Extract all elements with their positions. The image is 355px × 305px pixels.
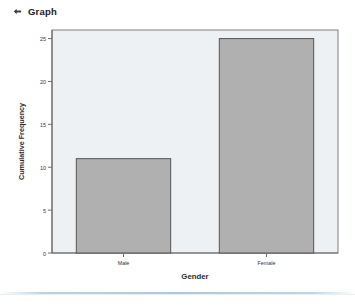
x-axis-title: Gender bbox=[181, 272, 208, 281]
y-axis-title: Cumulative Frequency bbox=[17, 103, 26, 180]
y-axis-tick-label: 15 bbox=[40, 122, 46, 128]
x-axis-tick-label: Male bbox=[118, 260, 130, 266]
y-axis-tick-label: 20 bbox=[40, 79, 46, 85]
chart-container: 0510152025Cumulative FrequencyMaleFemale… bbox=[0, 22, 355, 284]
bar-female[interactable] bbox=[219, 39, 313, 253]
y-axis-tick-label: 25 bbox=[40, 36, 46, 42]
x-axis-tick-label: Female bbox=[258, 260, 276, 266]
bar-chart: 0510152025Cumulative FrequencyMaleFemale… bbox=[0, 22, 355, 284]
page-title: Graph bbox=[28, 6, 57, 17]
y-axis-tick-label: 0 bbox=[43, 251, 46, 257]
diamond-bullet-icon bbox=[13, 7, 22, 16]
graph-header: Graph bbox=[0, 0, 355, 22]
bar-male[interactable] bbox=[76, 159, 170, 253]
footer-divider-shadow bbox=[0, 294, 355, 295]
y-axis-tick-label: 10 bbox=[40, 165, 46, 171]
y-axis-tick-label: 5 bbox=[43, 208, 46, 214]
